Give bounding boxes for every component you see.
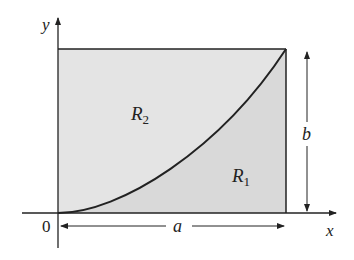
width-label-a: a	[173, 216, 182, 236]
x-axis-label: x	[325, 221, 334, 240]
height-label-b: b	[302, 124, 311, 144]
diagram: y x 0 a b R2 R1	[0, 0, 354, 260]
origin-label: 0	[42, 217, 51, 236]
y-axis-label: y	[40, 15, 50, 34]
